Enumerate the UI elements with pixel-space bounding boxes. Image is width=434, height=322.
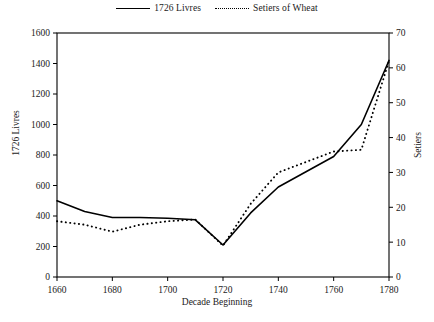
- svg-text:1660: 1660: [48, 285, 67, 295]
- svg-text:0: 0: [396, 272, 401, 282]
- svg-text:70: 70: [396, 28, 406, 38]
- left-axis-ticks: 02004006008001000120014001600: [31, 28, 57, 282]
- svg-text:1700: 1700: [158, 285, 177, 295]
- plot-area: 02004006008001000120014001600 0102030405…: [0, 0, 434, 322]
- svg-text:800: 800: [36, 150, 51, 160]
- svg-text:1600: 1600: [31, 28, 50, 38]
- svg-text:1200: 1200: [31, 89, 50, 99]
- svg-text:1760: 1760: [324, 285, 343, 295]
- svg-text:1720: 1720: [214, 285, 233, 295]
- svg-text:20: 20: [396, 203, 406, 213]
- svg-text:1740: 1740: [269, 285, 288, 295]
- svg-text:200: 200: [36, 242, 51, 252]
- svg-text:1680: 1680: [103, 285, 122, 295]
- series-line-1726-livres: [57, 60, 389, 245]
- right-axis-ticks: 010203040506070: [389, 28, 406, 282]
- svg-text:40: 40: [396, 133, 406, 143]
- svg-text:400: 400: [36, 211, 51, 221]
- svg-text:0: 0: [45, 272, 50, 282]
- svg-text:1000: 1000: [31, 120, 50, 130]
- svg-text:60: 60: [396, 63, 406, 73]
- series-line-setiers-of-wheat: [57, 61, 389, 246]
- chart-figure: 1726 Livres Setiers of Wheat 1726 Livres…: [0, 0, 434, 322]
- x-axis-ticks: 1660168017001720174017601780: [48, 277, 399, 295]
- svg-text:50: 50: [396, 98, 406, 108]
- svg-text:30: 30: [396, 168, 406, 178]
- svg-text:600: 600: [36, 181, 51, 191]
- plot-frame: [57, 33, 389, 277]
- svg-text:1780: 1780: [380, 285, 399, 295]
- svg-text:10: 10: [396, 238, 406, 248]
- svg-text:1400: 1400: [31, 59, 50, 69]
